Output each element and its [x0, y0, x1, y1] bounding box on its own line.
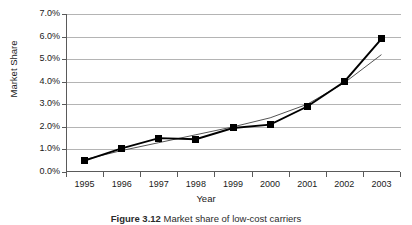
x-axis-tick-mark: [140, 172, 141, 177]
x-axis-tick-label: 2002: [326, 179, 363, 189]
x-axis-tick-mark: [177, 172, 178, 177]
x-axis-tick-mark: [103, 172, 104, 177]
data-point-marker: [155, 135, 162, 142]
figure-container: Market Share 7.0%6.0%5.0%4.0%3.0%2.0%1.0…: [0, 0, 412, 225]
figure-caption: Figure 3.12 Market share of low-cost car…: [0, 213, 412, 224]
data-series-layer: [0, 0, 412, 225]
data-point-marker: [118, 145, 125, 152]
series-line-path: [85, 39, 382, 161]
data-point-marker: [378, 35, 385, 42]
x-axis-tick-label: 1997: [140, 179, 177, 189]
data-point-marker: [192, 136, 199, 143]
x-axis-tick-label: 2000: [252, 179, 289, 189]
x-axis-tick-mark: [252, 172, 253, 177]
x-axis-tick-label: 2003: [363, 179, 400, 189]
data-point-marker: [304, 103, 311, 110]
data-point-marker: [230, 124, 237, 131]
figure-caption-label: Figure 3.12: [111, 213, 161, 224]
figure-caption-text: Market share of low-cost carriers: [164, 213, 302, 224]
x-axis-tick-label: 2001: [289, 179, 326, 189]
x-axis-tick-label: 1995: [66, 179, 103, 189]
data-point-marker: [267, 121, 274, 128]
x-axis-tick-mark: [326, 172, 327, 177]
x-axis-tick-label: 1998: [177, 179, 214, 189]
trendline-path: [85, 55, 382, 160]
x-axis-tick-mark: [363, 172, 364, 177]
x-axis-title: Year: [0, 194, 412, 204]
x-axis-tick-label: 1996: [103, 179, 140, 189]
x-axis-tick-mark: [66, 172, 67, 177]
x-axis-tick-mark: [289, 172, 290, 177]
x-axis-tick-mark: [214, 172, 215, 177]
x-axis-tick-label: 1999: [214, 179, 251, 189]
data-point-marker: [341, 78, 348, 85]
data-point-marker: [81, 157, 88, 164]
x-axis-tick-mark: [400, 172, 401, 177]
